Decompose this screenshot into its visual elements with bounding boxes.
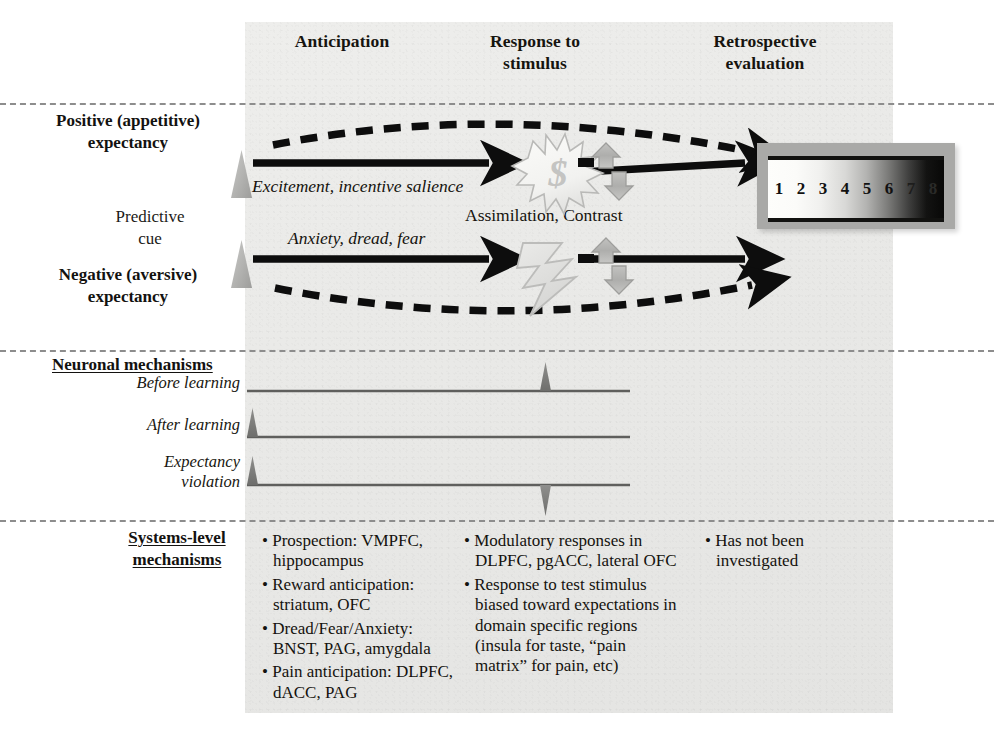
column-header-anticipation: Anticipation xyxy=(262,30,422,52)
section-label-systems-line1: Systems-level xyxy=(128,528,225,547)
trace-label-after-text: After learning xyxy=(147,415,240,434)
rating-tick-3[interactable]: 3 xyxy=(819,179,828,199)
caption-anxiety-text: Anxiety, dread, fear xyxy=(288,228,425,248)
row-label-negative-expectancy: Negative (aversive) expectancy xyxy=(18,264,238,308)
systems-bullets-retrospective: Has not been investigated xyxy=(705,531,885,575)
rating-scale-ticks: 12345678 xyxy=(768,160,944,218)
systems-bullet-list-response: Modulatory responses in DLPFC, pgACC, la… xyxy=(464,531,682,677)
row-label-positive-line1: Positive (appetitive) xyxy=(18,110,238,132)
trace-label-violation-line1: Expectancy xyxy=(60,452,240,472)
systems-bullets-response: Modulatory responses in DLPFC, pgACC, la… xyxy=(464,531,682,680)
row-label-negative-line1: Negative (aversive) xyxy=(18,264,238,286)
rating-scale-gradient: 12345678 xyxy=(768,156,944,222)
rating-tick-4[interactable]: 4 xyxy=(841,179,850,199)
column-header-response: Response to stimulus xyxy=(455,30,615,75)
caption-excitement-text: Excitement, incentive salience xyxy=(252,176,463,196)
rating-tick-1[interactable]: 1 xyxy=(775,179,784,199)
row-label-positive-line2: expectancy xyxy=(18,132,238,154)
trace-label-before-text: Before learning xyxy=(137,373,240,392)
row-label-cue-line1: Predictive xyxy=(90,206,210,228)
row-label-negative-line2: expectancy xyxy=(18,286,238,308)
systems-bullet-response-to-stimulus-0: Modulatory responses in DLPFC, pgACC, la… xyxy=(475,531,682,572)
column-header-retrospective: Retrospective evaluation xyxy=(675,30,855,75)
rating-tick-7[interactable]: 7 xyxy=(907,179,916,199)
systems-bullet-list-anticipation: Prospection: VMPFC, hippocampusReward an… xyxy=(262,531,454,703)
caption-anxiety: Anxiety, dread, fear xyxy=(288,228,425,249)
systems-bullets-anticipation: Prospection: VMPFC, hippocampusReward an… xyxy=(262,531,454,706)
systems-bullet-anticipation-2: Dread/Fear/Anxiety: BNST, PAG, amygdala xyxy=(273,619,454,660)
systems-bullet-anticipation-1: Reward anticipation: striatum, OFC xyxy=(273,575,454,616)
rating-tick-8[interactable]: 8 xyxy=(929,179,938,199)
systems-bullet-anticipation-0: Prospection: VMPFC, hippocampus xyxy=(273,531,454,572)
diagram-canvas: Anticipation Response to stimulus Retros… xyxy=(0,0,994,739)
separator-top xyxy=(0,103,994,105)
trace-label-expectancy-violation: Expectancy violation xyxy=(60,452,240,492)
trace-label-violation-line2: violation xyxy=(60,472,240,492)
column-header-response-line1: Response to xyxy=(455,30,615,52)
column-header-retrospective-line2: evaluation xyxy=(675,52,855,74)
section-label-systems-mechanisms: Systems-level mechanisms xyxy=(112,527,242,571)
caption-assimilation-text: Assimilation, Contrast xyxy=(465,205,623,225)
row-label-predictive-cue: Predictive cue xyxy=(90,206,210,250)
column-header-anticipation-label: Anticipation xyxy=(295,31,390,51)
trace-label-before-learning: Before learning xyxy=(60,373,240,393)
row-label-positive-expectancy: Positive (appetitive) expectancy xyxy=(18,110,238,154)
systems-bullet-list-retrospective: Has not been investigated xyxy=(705,531,885,572)
column-header-retrospective-line1: Retrospective xyxy=(675,30,855,52)
section-label-systems-line2: mechanisms xyxy=(133,550,222,569)
separator-systems xyxy=(0,520,994,522)
caption-assimilation-contrast: Assimilation, Contrast xyxy=(465,205,623,226)
separator-neuronal xyxy=(0,350,994,352)
rating-tick-6[interactable]: 6 xyxy=(885,179,894,199)
caption-excitement: Excitement, incentive salience xyxy=(252,176,463,197)
systems-bullet-anticipation-3: Pain anticipation: DLPFC, dACC, PAG xyxy=(273,662,454,703)
rating-tick-2[interactable]: 2 xyxy=(797,179,806,199)
rating-scale[interactable]: 12345678 xyxy=(757,143,955,229)
systems-bullet-response-to-stimulus-1: Response to test stimulus biased toward … xyxy=(475,575,682,677)
row-label-cue-line2: cue xyxy=(90,228,210,250)
column-header-response-line2: stimulus xyxy=(455,52,615,74)
systems-bullet-retrospective-evaluation-0: Has not been investigated xyxy=(716,531,885,572)
trace-label-after-learning: After learning xyxy=(60,415,240,435)
rating-tick-5[interactable]: 5 xyxy=(863,179,872,199)
section-label-neuronal-text: Neuronal mechanisms xyxy=(52,355,213,374)
